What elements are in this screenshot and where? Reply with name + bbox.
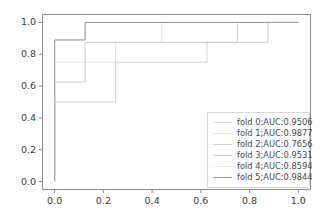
legend-item[interactable]: fold 3;AUC:0.9531	[213, 150, 304, 161]
x-tick-label: 0.8	[242, 196, 257, 206]
legend-line-swatch-fold-3	[213, 155, 232, 156]
legend-line-swatch-fold-2	[213, 144, 232, 145]
legend-line-swatch-fold-0	[213, 122, 232, 123]
legend-line-swatch-fold-1	[213, 133, 232, 134]
legend-label-fold-2: fold 2;AUC:0.7656	[237, 139, 313, 150]
legend-label-fold-5: fold 5;AUC:0.9844	[237, 172, 313, 183]
legend-label-fold-1: fold 1;AUC:0.9877	[237, 128, 313, 139]
legend-label-fold-4: fold 4;AUC:0.8594	[237, 161, 313, 172]
x-tick-label: 0.4	[145, 196, 160, 206]
legend[interactable]: fold 0;AUC:0.9506 fold 1;AUC:0.9877 fold…	[207, 112, 310, 188]
legend-line-swatch-fold-5	[213, 177, 232, 178]
y-tick-label: 1.0	[8, 18, 36, 28]
legend-item[interactable]: fold 0;AUC:0.9506	[213, 117, 304, 128]
x-tick-label: 0.2	[96, 196, 111, 206]
y-tick-label: 0.4	[8, 113, 36, 123]
legend-item[interactable]: fold 1;AUC:0.9877	[213, 128, 304, 139]
x-tick-label: 0.6	[193, 196, 208, 206]
legend-item[interactable]: fold 2;AUC:0.7656	[213, 139, 304, 150]
legend-item[interactable]: fold 4;AUC:0.8594	[213, 161, 304, 172]
legend-line-swatch-fold-4	[213, 166, 232, 167]
roc-curve-figure: 0.00.20.40.60.81.0 0.00.20.40.60.81.0 fo…	[0, 0, 332, 222]
x-tick-label: 1.0	[291, 196, 306, 206]
legend-label-fold-3: fold 3;AUC:0.9531	[237, 150, 313, 161]
plot-canvas	[0, 0, 332, 222]
legend-item[interactable]: fold 5;AUC:0.9844	[213, 172, 304, 183]
x-tick-label: 0.0	[47, 196, 62, 206]
legend-label-fold-0: fold 0;AUC:0.9506	[237, 117, 313, 128]
y-tick-label: 0.0	[8, 177, 36, 187]
y-tick-label: 0.8	[8, 50, 36, 60]
y-tick-label: 0.2	[8, 145, 36, 155]
y-tick-label: 0.6	[8, 81, 36, 91]
